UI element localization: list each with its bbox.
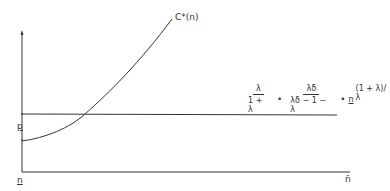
origin-label: n (17, 176, 23, 185)
y-axis-arrow-icon (21, 30, 24, 35)
fraction-1-numerator: λ (253, 84, 264, 95)
curve-label: C*(n) (175, 13, 199, 22)
formula-base: n (348, 95, 353, 104)
formula: λ 1 + λ • λδ λδ − 1 − λ • n (1 + λ)/λ (243, 84, 390, 114)
formula-exponent: (1 + λ)/λ (356, 84, 390, 102)
fraction-1: λ 1 + λ (245, 84, 272, 114)
multiply-dot-2: • (340, 94, 345, 104)
fraction-1-denominator: 1 + λ (245, 95, 272, 114)
fraction-2-numerator: λδ (303, 84, 319, 95)
fraction-2: λδ λδ − 1 − λ (287, 84, 335, 114)
y-axis-label-p: p (17, 122, 23, 131)
fraction-2-denominator: λδ − 1 − λ (287, 95, 335, 114)
x-axis-end-label: n̄ (345, 175, 351, 184)
multiply-dot-1: • (277, 94, 282, 104)
curve-c-star (22, 19, 172, 141)
horizontal-level-line (22, 114, 337, 115)
